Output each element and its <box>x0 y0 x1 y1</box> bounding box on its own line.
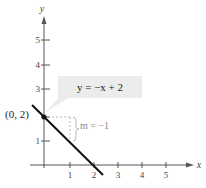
y-tick-label: 5 <box>36 35 41 45</box>
callout-pointer <box>46 98 68 112</box>
y-tick-label: 4 <box>36 60 41 70</box>
x-axis-arrow-icon <box>186 163 194 168</box>
x-tick-label: 3 <box>116 170 121 180</box>
point-marker <box>42 115 47 120</box>
x-tick-label: 2 <box>92 170 97 180</box>
point-label: (0, 2) <box>5 108 29 120</box>
y-axis-arrow-icon <box>42 16 47 24</box>
y-axis-label: y <box>39 3 45 14</box>
x-tick-label: 1 <box>68 170 73 180</box>
y-ticks <box>41 40 50 141</box>
equation-label: y = −x + 2 <box>58 76 142 98</box>
slope-brace-icon <box>73 117 79 141</box>
y-tick-label: 3 <box>36 84 41 94</box>
x-tick-label: 4 <box>140 170 145 180</box>
x-tick-label: 5 <box>164 170 169 180</box>
y-tick-label: 1 <box>36 136 41 146</box>
x-axis-label: x <box>196 159 202 170</box>
slope-label: m = −1 <box>80 120 109 131</box>
